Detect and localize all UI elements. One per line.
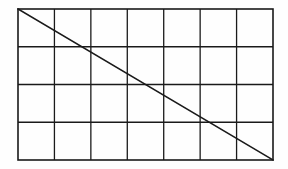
figure-container [0,0,288,169]
rectangle-grid-diagram [0,0,288,169]
